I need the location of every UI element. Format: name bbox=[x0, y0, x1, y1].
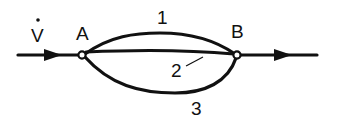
path-3-label: 3 bbox=[191, 98, 202, 119]
path-1-label: 1 bbox=[157, 7, 168, 28]
outlet-arrow-icon bbox=[274, 49, 292, 61]
node-b bbox=[233, 51, 240, 58]
flow-network-diagram: V A 1 B 2 3 bbox=[0, 0, 337, 129]
path-2-leader-line bbox=[186, 57, 203, 66]
node-a-label: A bbox=[76, 23, 89, 44]
node-b-label: B bbox=[231, 21, 244, 42]
inlet-arrow-icon bbox=[44, 49, 62, 61]
flow-dot-icon bbox=[36, 18, 40, 22]
path-2-line bbox=[86, 51, 234, 54]
path-2-label: 2 bbox=[171, 60, 182, 81]
node-a bbox=[78, 51, 85, 58]
flow-label: V bbox=[31, 25, 44, 46]
path-3-line bbox=[85, 57, 236, 93]
